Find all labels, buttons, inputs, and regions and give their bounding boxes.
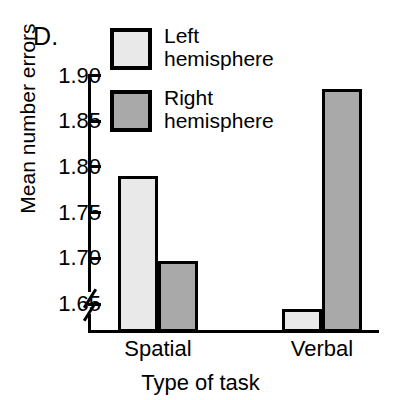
bar-spatial-left-hemisphere: [118, 176, 158, 332]
y-axis-tick-label: 1.70: [23, 247, 101, 269]
bar-spatial-right-hemisphere: [158, 261, 198, 332]
legend-label-right-hemisphere: Right hemisphere: [164, 87, 274, 132]
y-axis-tick-label: 1.80: [23, 156, 101, 178]
x-axis-title: Type of task: [0, 372, 401, 394]
x-tick-label-spatial: Spatial: [88, 338, 228, 360]
y-axis-tick-label: 1.85: [23, 110, 101, 132]
bar-verbal-left-hemisphere: [282, 309, 322, 333]
legend-swatch-left-hemisphere: [110, 28, 152, 70]
y-axis-tick-label: 1.90: [23, 65, 101, 87]
legend-label-left-hemisphere: Left hemisphere: [164, 25, 274, 70]
figure-panel-d: D. Mean number errors 1.651.701.751.801.…: [0, 0, 401, 400]
legend-item-right-hemisphere: Right hemisphere: [110, 90, 274, 132]
bar-verbal-right-hemisphere: [322, 89, 362, 332]
legend-swatch-right-hemisphere: [110, 90, 152, 132]
y-axis-tick-label: 1.65: [23, 293, 101, 315]
x-tick-label-verbal: Verbal: [252, 338, 392, 360]
y-axis-tick-label: 1.75: [23, 202, 101, 224]
legend-item-left-hemisphere: Left hemisphere: [110, 28, 274, 70]
